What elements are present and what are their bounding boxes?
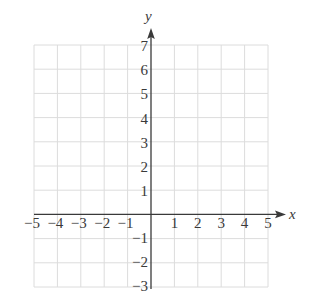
x-tick-labels-negative: −5 −4 −3 −2 −1 bbox=[24, 215, 134, 231]
x-tick-label: 1 bbox=[171, 215, 179, 231]
y-tick-label: 5 bbox=[141, 86, 149, 102]
x-tick-label: −1 bbox=[118, 215, 134, 231]
y-tick-labels-negative: −1 −2 −3 bbox=[132, 230, 148, 294]
coordinate-plane: x y −5 −4 −3 −2 −1 1 2 3 4 5 7 6 5 4 3 2… bbox=[0, 0, 314, 299]
y-tick-label: 1 bbox=[141, 183, 149, 199]
y-tick-label: −1 bbox=[132, 230, 148, 246]
y-tick-label: −3 bbox=[132, 278, 148, 294]
y-tick-label: 3 bbox=[141, 135, 149, 151]
y-tick-label: 6 bbox=[141, 62, 149, 78]
x-tick-label: −4 bbox=[47, 215, 63, 231]
y-tick-label: −2 bbox=[132, 254, 148, 270]
y-tick-label: 2 bbox=[141, 159, 149, 175]
x-tick-labels-positive: 1 2 3 4 5 bbox=[171, 215, 272, 231]
x-tick-label: −3 bbox=[71, 215, 87, 231]
x-tick-label: −5 bbox=[24, 215, 40, 231]
x-tick-label: 2 bbox=[194, 215, 202, 231]
x-tick-label: 3 bbox=[217, 215, 225, 231]
x-axis-label: x bbox=[288, 206, 296, 222]
x-tick-label: 5 bbox=[264, 215, 272, 231]
x-tick-label: −2 bbox=[94, 215, 110, 231]
y-tick-labels-positive: 7 6 5 4 3 2 1 bbox=[141, 38, 149, 199]
y-tick-label: 7 bbox=[141, 38, 149, 54]
y-axis-label: y bbox=[143, 8, 152, 24]
y-tick-label: 4 bbox=[141, 111, 149, 127]
x-tick-label: 4 bbox=[241, 215, 249, 231]
